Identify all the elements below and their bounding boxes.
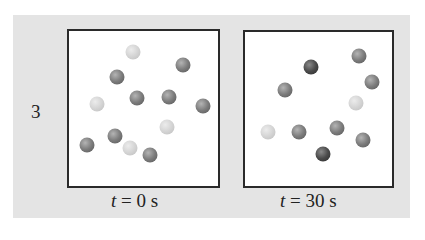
- molecule-medium: [292, 125, 307, 140]
- molecule-medium: [330, 121, 345, 136]
- time-value: = 30 s: [285, 190, 336, 211]
- molecule-medium: [352, 49, 367, 64]
- molecule-light: [90, 97, 105, 112]
- molecule-medium: [356, 133, 371, 148]
- molecule-medium: [143, 148, 158, 163]
- frame-box-t30: [243, 30, 394, 188]
- row-number-label: 3: [31, 102, 45, 122]
- time-label-t0: t = 0 s: [111, 190, 158, 212]
- molecule-dark: [304, 60, 319, 75]
- frame-box-t0: [67, 29, 220, 188]
- molecule-light: [123, 141, 138, 156]
- time-value: = 0 s: [116, 190, 158, 211]
- molecule-light: [160, 120, 175, 135]
- molecule-medium: [365, 75, 380, 90]
- molecule-medium: [162, 90, 177, 105]
- molecule-medium: [108, 129, 123, 144]
- molecule-medium: [176, 58, 191, 73]
- molecule-medium: [80, 138, 95, 153]
- molecule-light: [261, 125, 276, 140]
- molecule-medium: [110, 70, 125, 85]
- molecule-light: [126, 45, 141, 60]
- molecule-light: [349, 96, 364, 111]
- molecule-dark: [316, 147, 331, 162]
- molecule-medium: [196, 99, 211, 114]
- molecule-medium: [278, 83, 293, 98]
- time-label-t30: t = 30 s: [280, 190, 337, 212]
- molecule-medium: [130, 91, 145, 106]
